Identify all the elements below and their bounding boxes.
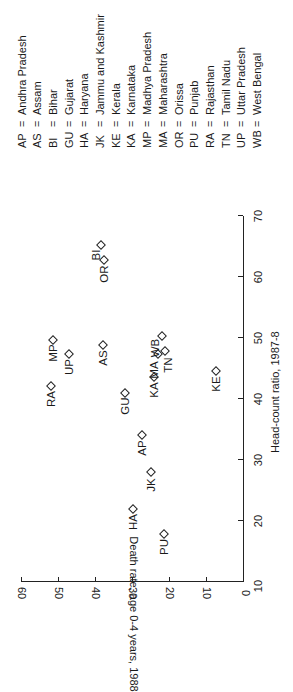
data-point-label: RA bbox=[45, 391, 56, 407]
legend-separator: = bbox=[111, 121, 122, 127]
legend-name: Gujarat bbox=[64, 79, 75, 115]
data-point-marker bbox=[65, 349, 75, 359]
legend-name: West Bengal bbox=[252, 53, 263, 115]
data-point-label: AP bbox=[137, 441, 148, 456]
y-tick-label: 40 bbox=[90, 587, 101, 599]
legend-abbr: AP bbox=[17, 133, 28, 148]
x-axis-title: Head-count ratio, 1987-8 bbox=[270, 331, 281, 453]
legend-name: Bihar bbox=[48, 89, 59, 115]
data-point-label: MP bbox=[47, 344, 58, 361]
y-axis-tick bbox=[243, 577, 244, 582]
legend-separator: = bbox=[32, 121, 43, 127]
x-axis-tick bbox=[238, 337, 243, 338]
legend-abbr: GU bbox=[64, 132, 75, 149]
data-point-marker bbox=[96, 240, 106, 250]
y-tick-label: 10 bbox=[201, 587, 212, 599]
legend-name: Assam bbox=[32, 81, 43, 115]
data-point-marker bbox=[99, 255, 109, 265]
data-point-label: TN bbox=[162, 357, 173, 372]
data-point-marker bbox=[48, 335, 58, 345]
y-axis-tick bbox=[58, 577, 59, 582]
legend-abbr: MP bbox=[142, 132, 153, 149]
legend-separator: = bbox=[64, 121, 75, 127]
legend-separator: = bbox=[126, 121, 137, 127]
y-axis-title: Death rate, age 0-4 years, 1988 bbox=[128, 536, 139, 691]
data-point-label: JK bbox=[145, 478, 156, 491]
legend-abbr: PU bbox=[189, 133, 200, 148]
legend-name: Kerala bbox=[111, 83, 122, 115]
x-axis-tick bbox=[238, 276, 243, 277]
y-axis-tick bbox=[21, 577, 22, 582]
legend-abbr: KA bbox=[126, 133, 137, 148]
legend-abbr: RA bbox=[205, 133, 216, 148]
legend-abbr: AS bbox=[32, 133, 43, 148]
legend-separator: = bbox=[189, 121, 200, 127]
x-axis-tick bbox=[238, 459, 243, 460]
data-point-marker bbox=[146, 467, 156, 477]
data-point-marker bbox=[120, 388, 130, 398]
data-point-label: KE bbox=[210, 377, 221, 392]
x-axis-tick bbox=[238, 520, 243, 521]
x-tick-label: 40 bbox=[253, 393, 264, 405]
data-point-label: HA bbox=[128, 514, 139, 530]
legend-name: Maharashtra bbox=[158, 53, 169, 115]
y-axis-tick bbox=[206, 577, 207, 582]
data-point-marker bbox=[159, 529, 169, 539]
legend-separator: = bbox=[236, 121, 247, 127]
y-tick-label: 50 bbox=[53, 587, 64, 599]
x-tick-label: 70 bbox=[253, 210, 264, 222]
x-axis-tick bbox=[238, 215, 243, 216]
legend-separator: = bbox=[142, 121, 153, 127]
legend-abbr: MA bbox=[158, 132, 169, 149]
y-tick-label: 0 bbox=[240, 590, 251, 596]
data-point-label: UP bbox=[64, 359, 75, 375]
legend-abbr: TN bbox=[221, 133, 232, 148]
data-point-label: AS bbox=[98, 350, 109, 365]
legend-separator: = bbox=[252, 121, 263, 127]
legend-separator: = bbox=[205, 121, 216, 127]
legend-separator: = bbox=[174, 121, 185, 127]
legend-abbr: JK bbox=[95, 135, 106, 148]
legend-abbr: UP bbox=[236, 133, 247, 148]
data-point-label: WB bbox=[149, 339, 160, 358]
legend-name: Rajasthan bbox=[205, 65, 216, 115]
x-axis-tick bbox=[238, 398, 243, 399]
y-tick-label: 60 bbox=[16, 587, 27, 599]
x-tick-label: 10 bbox=[253, 580, 264, 592]
data-point-marker bbox=[46, 381, 56, 391]
data-point-marker bbox=[98, 340, 108, 350]
legend-name: Karnataka bbox=[126, 65, 137, 115]
legend-abbr: HA bbox=[79, 133, 90, 148]
x-tick-label: 20 bbox=[253, 515, 264, 527]
x-tick-label: 50 bbox=[253, 332, 264, 344]
legend-separator: = bbox=[17, 121, 28, 127]
data-point-marker bbox=[211, 366, 221, 376]
x-tick-label: 60 bbox=[253, 271, 264, 283]
legend-separator: = bbox=[95, 121, 106, 127]
legend-name: Orissa bbox=[174, 83, 185, 115]
legend-abbr: BI bbox=[48, 138, 59, 148]
legend-abbr: KE bbox=[111, 133, 122, 148]
legend-name: Madhya Pradesh bbox=[142, 32, 153, 115]
data-point-label: OR bbox=[98, 266, 109, 283]
legend-name: Punjab bbox=[189, 81, 200, 115]
y-axis-tick bbox=[95, 577, 96, 582]
x-tick-label: 30 bbox=[253, 454, 264, 466]
data-point-label: GU bbox=[119, 397, 130, 414]
y-tick-label: 20 bbox=[164, 587, 175, 599]
legend-name: Haryana bbox=[79, 73, 90, 115]
y-axis-tick bbox=[169, 577, 170, 582]
data-point-marker bbox=[129, 504, 139, 514]
legend-abbr: OR bbox=[174, 132, 185, 149]
data-point-marker bbox=[137, 430, 147, 440]
data-point-label: PU bbox=[158, 539, 169, 555]
legend-name: Jammu and Kashmir bbox=[95, 14, 106, 115]
legend-name: Tamil Nadu bbox=[221, 60, 232, 115]
legend-abbr: WB bbox=[252, 130, 263, 148]
legend-separator: = bbox=[221, 121, 232, 127]
legend-separator: = bbox=[158, 121, 169, 127]
legend-separator: = bbox=[79, 121, 90, 127]
legend-name: Andhra Pradesh bbox=[17, 36, 28, 116]
data-point-label: MA bbox=[149, 362, 160, 379]
